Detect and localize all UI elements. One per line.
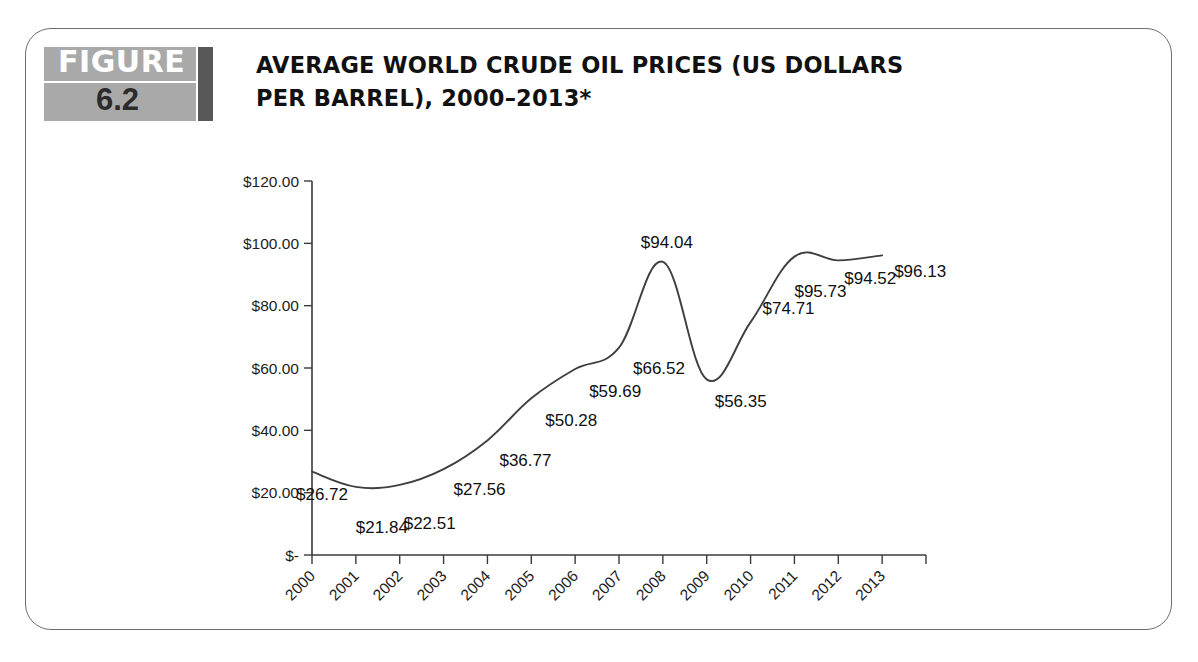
x-axis-tick-label: 2001 [326,567,362,603]
data-point-label: $21.84 [356,518,408,537]
chart-plot-area: $-$20.00$40.00$60.00$80.00$100.00$120.00… [26,29,1173,631]
y-axis-tick-label: $100.00 [243,235,299,252]
data-point-label: $36.77 [499,451,551,470]
y-axis-tick-label: $- [285,547,299,564]
y-axis-tick-label: $120.00 [243,173,299,190]
y-axis-tick-label: $40.00 [252,422,300,439]
x-axis-tick-label: 2007 [589,567,625,603]
data-point-label: $27.56 [454,480,506,499]
line-chart: $-$20.00$40.00$60.00$80.00$100.00$120.00… [26,29,1173,631]
y-axis: $-$20.00$40.00$60.00$80.00$100.00$120.00 [243,173,312,564]
x-axis-tick-label: 2008 [633,567,669,603]
figure-frame: FIGURE 6.2 AVERAGE WORLD CRUDE OIL PRICE… [25,28,1172,630]
x-axis-tick-label: 2002 [369,567,405,603]
x-axis-tick-label: 2012 [808,567,844,603]
x-axis: 2000200120022003200420052006200720082009… [282,555,926,604]
data-point-label: $56.35 [715,392,767,411]
x-axis-tick-label: 2003 [413,567,449,603]
y-axis-tick-label: $80.00 [252,297,300,314]
data-point-label: $22.51 [404,514,456,533]
data-point-label: $26.72 [296,485,348,504]
x-axis-tick-label: 2000 [282,567,319,604]
x-axis-tick-label: 2010 [720,567,757,604]
x-axis-tick-label: 2009 [676,567,712,603]
data-point-label: $95.73 [794,282,846,301]
y-axis-tick-label: $20.00 [252,484,300,501]
x-axis-tick-label: 2011 [765,567,801,603]
data-point-label: $96.13 [894,262,946,281]
data-point-label: $66.52 [633,359,685,378]
data-point-label: $50.28 [545,411,597,430]
data-point-label: $74.71 [763,299,815,318]
data-point-label: $59.69 [589,382,641,401]
y-axis-tick-label: $60.00 [252,360,300,377]
data-point-label: $94.04 [641,233,693,252]
x-axis-tick-label: 2006 [545,567,581,603]
x-axis-tick-label: 2005 [501,567,537,603]
x-axis-tick-label: 2013 [852,567,888,603]
data-point-labels: $26.72$21.84$22.51$27.56$36.77$50.28$59.… [296,233,946,537]
x-axis-tick-label: 2004 [457,567,494,604]
data-point-label: $94.52 [844,269,896,288]
